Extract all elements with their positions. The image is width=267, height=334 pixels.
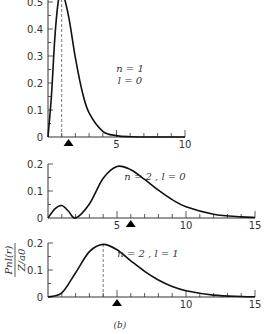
panel-n2-l0: 5101500.10.2n = 2 , l = 0	[27, 159, 261, 232]
svg-text:Z/a0: Z/a0	[16, 248, 27, 272]
mean-radius-triangle-icon	[126, 220, 136, 227]
y-axis-label: Pnl(r)Z/a0	[3, 243, 27, 277]
y-tick-label: 0.2	[27, 159, 43, 170]
x-tick-label: 15	[249, 220, 262, 231]
y-tick-label: 0.2	[27, 238, 43, 249]
mean-radius-triangle-icon	[112, 299, 122, 306]
svg-text:Pnl(r): Pnl(r)	[3, 245, 14, 275]
state-label: n = 2 , l = 0	[124, 171, 186, 182]
state-label: l = 0	[118, 75, 143, 86]
x-tick-label: 5	[114, 220, 120, 231]
mean-radius-triangle-icon	[64, 139, 74, 146]
panel-n2-l1: 101500.10.2n = 2 , l = 1	[27, 238, 261, 311]
y-tick-label: 0.4	[27, 24, 43, 35]
y-tick-label: 0.1	[27, 105, 43, 116]
y-tick-label: 0.1	[27, 186, 43, 197]
figure-caption: (b)	[114, 320, 127, 330]
y-tick-label: 0	[37, 132, 43, 143]
y-tick-label: 0.2	[27, 78, 43, 89]
state-label: n = 2 , l = 1	[117, 248, 178, 259]
panel-n1-l0: 51000.10.20.30.40.5n = 1l = 0	[27, 0, 191, 150]
x-tick-label: 10	[180, 299, 193, 310]
x-tick-label: 10	[179, 139, 192, 150]
radial-probability-figure: 51000.10.20.30.40.5n = 1l = 05101500.10.…	[0, 0, 267, 334]
state-label: n = 1	[116, 63, 144, 74]
x-tick-label: 10	[180, 220, 193, 231]
y-tick-label: 0	[37, 292, 43, 303]
y-tick-label: 0	[37, 213, 43, 224]
x-tick-label: 15	[249, 299, 262, 310]
y-tick-label: 0.3	[27, 51, 43, 62]
x-tick-label: 5	[113, 139, 119, 150]
y-tick-label: 0.5	[27, 0, 43, 8]
y-tick-label: 0.1	[27, 265, 43, 276]
